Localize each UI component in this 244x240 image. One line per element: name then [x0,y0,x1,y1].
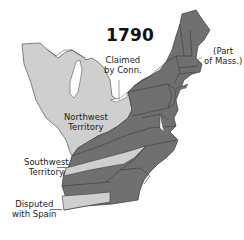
map-title: 1790 [106,25,154,45]
disputed-with-spain-leader [50,209,62,210]
label-claimed-by-conn: Claimed by Conn. [104,55,142,75]
label-part-of-mass: (Part of Mass.) [204,46,242,66]
label-northwest-territory: Northwest Territory [64,112,108,132]
southwest-territory-leader [57,167,67,168]
